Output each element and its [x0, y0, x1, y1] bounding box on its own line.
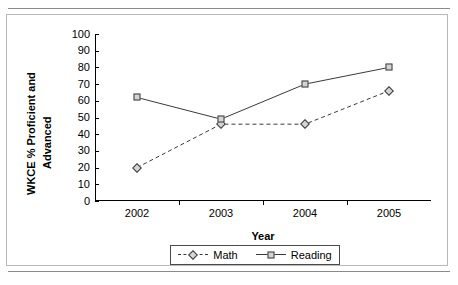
- y-axis-tick-label: 20: [78, 162, 95, 173]
- y-axis-title-line-2: Advanced: [41, 116, 53, 169]
- x-axis-tick-mark: [263, 201, 264, 205]
- legend-item-math[interactable]: Math: [178, 250, 237, 261]
- data-point-reading-2004: [302, 81, 309, 88]
- x-axis-tick-label: 2003: [209, 208, 233, 219]
- diamond-marker-icon: [188, 250, 198, 260]
- y-axis-tick-label: 10: [78, 178, 95, 189]
- chart-legend: MathReading: [170, 245, 340, 265]
- square-marker-icon: [267, 252, 274, 259]
- top-horizontal-rule: [8, 8, 450, 9]
- y-axis-tick-label: 60: [78, 95, 95, 106]
- series-line-math: [137, 91, 389, 168]
- plot-area: 1009080706050403020100 2002200320042005 …: [95, 34, 431, 201]
- legend-label: Reading: [291, 250, 332, 261]
- series-line-reading: [137, 67, 389, 119]
- y-axis-tick-label: 70: [78, 78, 95, 89]
- data-point-reading-2002: [134, 94, 141, 101]
- y-axis-tick-label: 90: [78, 45, 95, 56]
- y-axis-tick-label: 50: [78, 112, 95, 123]
- y-axis-tick-label: 40: [78, 128, 95, 139]
- x-axis-tick-mark: [179, 201, 180, 205]
- data-point-reading-2005: [386, 64, 393, 71]
- y-axis-tick-label: 30: [78, 145, 95, 156]
- x-axis-tick-mark: [347, 201, 348, 205]
- legend-swatch-reading: [256, 250, 286, 260]
- y-axis-tick-mark: [95, 201, 99, 202]
- legend-swatch-math: [178, 250, 208, 260]
- x-axis-tick-label: 2002: [125, 208, 149, 219]
- series-lines: [95, 34, 431, 201]
- y-axis-tick-label: 100: [72, 28, 95, 39]
- y-axis-title: WKCE % Proficient and Advanced: [11, 33, 47, 203]
- legend-label: Math: [213, 250, 237, 261]
- x-axis-title: Year: [95, 230, 431, 242]
- data-point-reading-2003: [218, 116, 225, 123]
- legend-item-reading[interactable]: Reading: [256, 250, 332, 261]
- y-axis-title-line-1: WKCE % Proficient and: [25, 72, 37, 195]
- x-axis-tick-label: 2005: [377, 208, 401, 219]
- y-axis-tick-label: 0: [84, 195, 95, 206]
- x-axis-tick-label: 2004: [293, 208, 317, 219]
- bottom-horizontal-rule: [8, 271, 450, 272]
- chart-figure: WKCE % Proficient and Advanced 100908070…: [6, 14, 448, 266]
- y-axis-tick-label: 80: [78, 61, 95, 72]
